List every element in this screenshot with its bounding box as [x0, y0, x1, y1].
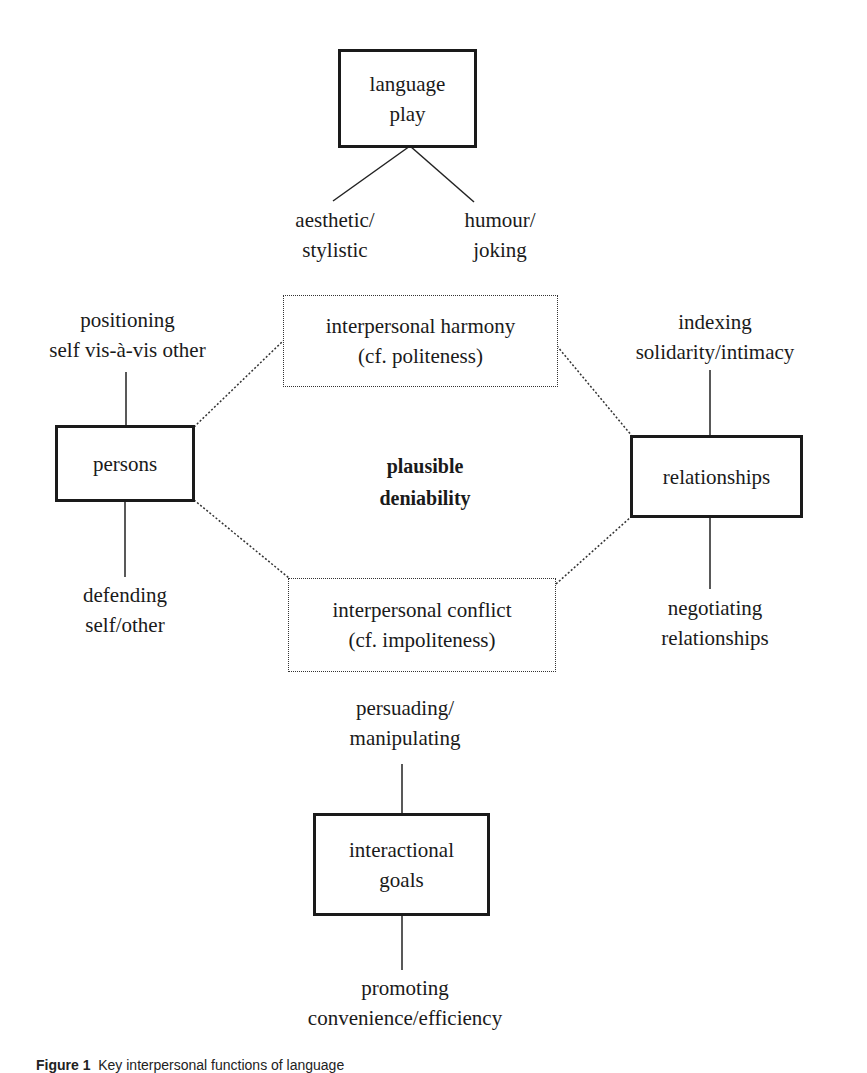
node-interactional-goals: interactional goals: [313, 813, 490, 916]
node-persons: persons: [55, 425, 195, 502]
node-label: interpersonal harmony: [326, 311, 516, 341]
node-label: (cf. politeness): [358, 341, 483, 371]
leaf-humour-joking: humour/ joking: [420, 205, 580, 265]
leaf-line: self vis-à-vis other: [20, 335, 235, 365]
center-label-line: deniability: [330, 482, 520, 514]
leaf-line: aesthetic/: [245, 205, 425, 235]
leaf-line: persuading/: [310, 693, 500, 723]
leaf-line: defending: [35, 580, 215, 610]
leaf-positioning: positioning self vis-à-vis other: [20, 305, 235, 365]
node-relationships: relationships: [630, 435, 803, 518]
node-label: play: [389, 99, 425, 129]
node-label: (cf. impoliteness): [349, 625, 496, 655]
leaf-line: convenience/efficiency: [290, 1003, 520, 1033]
leaf-line: indexing: [600, 307, 830, 337]
node-label: relationships: [663, 462, 770, 492]
center-label-plausible-deniability: plausible deniability: [330, 450, 520, 514]
node-language-play: language play: [338, 49, 477, 148]
center-label-line: plausible: [330, 450, 520, 482]
leaf-line: humour/: [420, 205, 580, 235]
leaf-persuading: persuading/ manipulating: [310, 693, 500, 753]
node-label: goals: [379, 865, 423, 895]
node-label: interpersonal conflict: [332, 595, 511, 625]
leaf-negotiating: negotiating relationships: [620, 593, 810, 653]
node-interpersonal-harmony: interpersonal harmony (cf. politeness): [283, 295, 558, 387]
leaf-line: negotiating: [620, 593, 810, 623]
leaf-line: joking: [420, 235, 580, 265]
figure-caption: Figure 1 Key interpersonal functions of …: [36, 1057, 344, 1073]
leaf-line: manipulating: [310, 723, 500, 753]
leaf-aesthetic-stylistic: aesthetic/ stylistic: [245, 205, 425, 265]
leaf-promoting: promoting convenience/efficiency: [290, 973, 520, 1033]
leaf-line: relationships: [620, 623, 810, 653]
leaf-defending: defending self/other: [35, 580, 215, 640]
node-label: persons: [93, 449, 157, 479]
leaf-line: solidarity/intimacy: [600, 337, 830, 367]
leaf-line: positioning: [20, 305, 235, 335]
leaf-line: stylistic: [245, 235, 425, 265]
figure-label: Figure 1: [36, 1057, 90, 1073]
caption-text: Key interpersonal functions of language: [98, 1057, 344, 1073]
node-label: interactional: [349, 835, 454, 865]
node-interpersonal-conflict: interpersonal conflict (cf. impoliteness…: [288, 578, 556, 672]
leaf-line: promoting: [290, 973, 520, 1003]
node-label: language: [370, 69, 446, 99]
leaf-indexing: indexing solidarity/intimacy: [600, 307, 830, 367]
leaf-line: self/other: [35, 610, 215, 640]
